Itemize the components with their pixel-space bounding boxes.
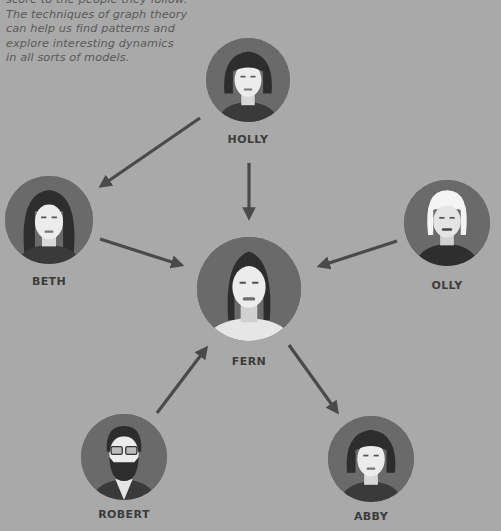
beth-avatar [5,176,93,264]
holly-label: HOLLY [188,133,308,146]
fern-avatar [197,237,301,341]
abby-avatar [328,416,414,502]
edge-holly-beth-arrow [104,118,200,184]
robert-label: ROBERT [64,508,184,521]
beth-portrait-icon [5,176,93,264]
olly-portrait-icon [404,180,490,266]
olly-label: OLLY [387,279,501,292]
abby-portrait-icon [328,416,414,502]
holly-avatar [206,38,290,122]
edge-beth-fern-arrow [100,239,178,264]
fern-label: FERN [189,355,309,368]
robert-avatar [81,414,167,500]
beth-label: BETH [0,275,109,288]
graph-diagram: score to the people they follow. The tec… [0,0,501,531]
abby-label: ABBY [311,510,431,523]
robert-portrait-icon [81,414,167,500]
edge-olly-fern-arrow [323,241,397,265]
olly-avatar [404,180,490,266]
fern-portrait-icon [197,237,301,341]
holly-portrait-icon [206,38,290,122]
